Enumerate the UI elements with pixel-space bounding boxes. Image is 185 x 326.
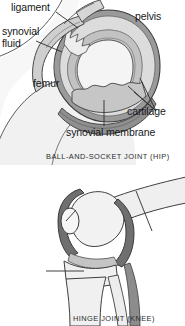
patella-bone: [61, 208, 79, 234]
label-pelvis: pelvis: [135, 11, 161, 23]
label-synovial-membrane: synovial membrane: [66, 127, 155, 139]
label-femur-hip: femur: [33, 78, 59, 90]
knee-joint-illustration: [0, 165, 185, 326]
caption-ball-and-socket-joint: BALL-AND-SOCKET JOINT (HIP): [46, 152, 170, 161]
anatomy-figure: ligament synovial fluid pelvis femur car…: [0, 0, 185, 326]
label-synovial-fluid-line1: synovial: [2, 25, 39, 37]
panel-ball-and-socket-joint: ligament synovial fluid pelvis femur car…: [0, 0, 185, 165]
label-synovial-fluid: synovial fluid: [2, 26, 48, 49]
caption-hinge-joint: HINGE JOINT (KNEE): [73, 314, 155, 323]
label-synovial-fluid-line2: fluid: [2, 37, 21, 49]
label-cartilage: cartilage: [127, 106, 166, 118]
label-ligament: ligament: [11, 2, 50, 14]
panel-hinge-joint: patella (kneecap) femur tibia: [0, 165, 185, 326]
